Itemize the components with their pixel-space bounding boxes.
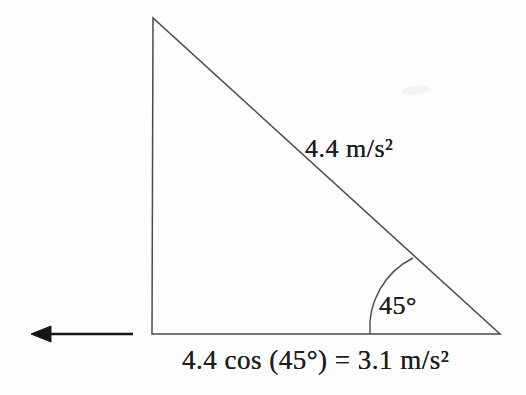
triangle-outline — [152, 18, 500, 334]
hypotenuse-magnitude-label: 4.4 m/s² — [305, 136, 393, 162]
physics-vector-decomposition-diagram: 4.4 m/s² 45° 4.4 cos (45°) = 3.1 m/s² — [0, 0, 526, 395]
triangle-diagram-canvas — [0, 0, 526, 395]
angle-value-label: 45° — [379, 293, 417, 319]
scan-smudge — [402, 84, 431, 97]
arrow-head-icon — [31, 326, 51, 342]
horizontal-component-label: 4.4 cos (45°) = 3.1 m/s² — [182, 347, 449, 374]
